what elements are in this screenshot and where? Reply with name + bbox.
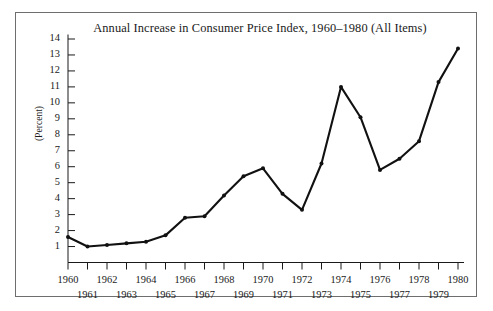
y-tick-label: 12 (44, 64, 60, 75)
x-tick-label: 1960 (48, 274, 88, 285)
data-point (242, 174, 246, 178)
y-tick-label: 2 (44, 224, 60, 235)
data-point (437, 80, 441, 84)
figure-container: Annual Increase in Consumer Price Index,… (0, 0, 493, 311)
x-tick-label: 1976 (360, 274, 400, 285)
data-point (359, 115, 363, 119)
data-point (203, 214, 207, 218)
y-tick-label: 11 (44, 80, 60, 91)
data-point-markers (66, 47, 460, 249)
x-tick-label: 1967 (185, 289, 225, 300)
data-point (183, 216, 187, 220)
data-point (456, 47, 460, 51)
y-tick-label: 8 (44, 128, 60, 139)
x-tick-label: 1979 (419, 289, 459, 300)
data-point (164, 233, 168, 237)
data-point (261, 166, 265, 170)
y-axis-ticks (68, 39, 75, 247)
x-tick-label: 1972 (282, 274, 322, 285)
data-point (105, 243, 109, 247)
x-tick-label: 1978 (399, 274, 439, 285)
y-tick-label: 4 (44, 192, 60, 203)
data-point (378, 168, 382, 172)
x-axis-ticks (68, 263, 458, 270)
x-tick-label: 1971 (263, 289, 303, 300)
x-tick-label: 1962 (87, 274, 127, 285)
y-tick-label: 5 (44, 176, 60, 187)
y-tick-label: 14 (44, 32, 60, 43)
data-point (398, 157, 402, 161)
x-tick-label: 1973 (302, 289, 342, 300)
data-point (300, 208, 304, 212)
y-tick-label: 10 (44, 96, 60, 107)
x-tick-label: 1968 (204, 274, 244, 285)
data-point (281, 192, 285, 196)
x-tick-label: 1970 (243, 274, 283, 285)
y-tick-label: 1 (44, 240, 60, 251)
x-tick-label: 1974 (321, 274, 361, 285)
data-point (320, 162, 324, 166)
x-tick-label: 1963 (107, 289, 147, 300)
y-tick-label: 7 (44, 144, 60, 155)
x-tick-label: 1961 (68, 289, 108, 300)
data-point (86, 245, 90, 249)
y-tick-label: 13 (44, 48, 60, 59)
data-point (417, 139, 421, 143)
data-point (125, 241, 129, 245)
data-point (144, 240, 148, 244)
x-tick-label: 1965 (146, 289, 186, 300)
y-tick-label: 9 (44, 112, 60, 123)
x-tick-label: 1977 (380, 289, 420, 300)
data-point (339, 85, 343, 89)
x-tick-label: 1969 (224, 289, 264, 300)
chart-plot (0, 0, 493, 311)
data-point (66, 235, 70, 239)
y-tick-label: 3 (44, 208, 60, 219)
data-series-line (68, 49, 458, 247)
y-tick-label: 6 (44, 160, 60, 171)
x-tick-label: 1964 (126, 274, 166, 285)
data-point (222, 193, 226, 197)
x-tick-label: 1980 (438, 274, 478, 285)
x-tick-label: 1975 (341, 289, 381, 300)
x-tick-label: 1966 (165, 274, 205, 285)
